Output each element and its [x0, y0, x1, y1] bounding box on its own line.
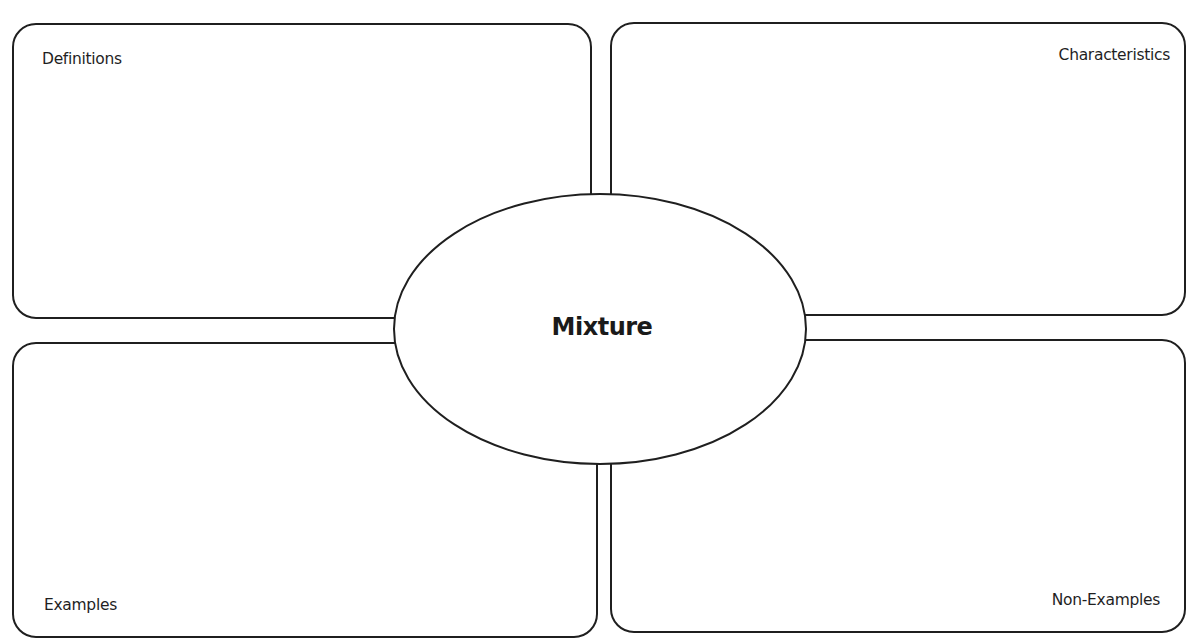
center-concept-label: Mixture: [500, 313, 704, 341]
